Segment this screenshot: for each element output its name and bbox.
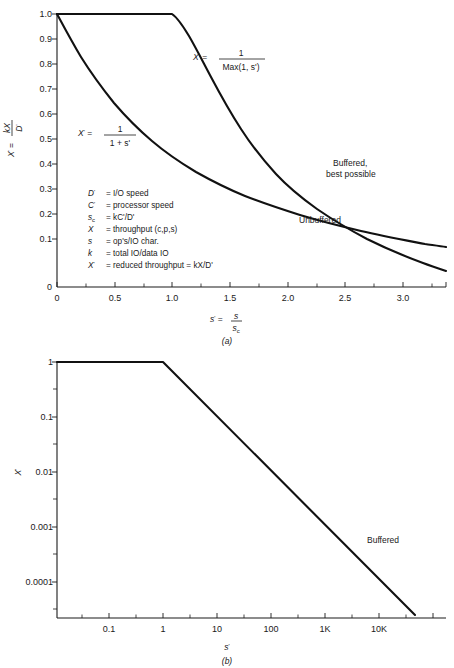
svg-text:k: k (88, 249, 93, 258)
legend-definition: = kC'/D' (106, 213, 135, 222)
legend-row: X = throughput (c,p,s) (87, 225, 177, 234)
panel-b-x-tick-labels: 0.1 1 10 100 1K 10K (103, 624, 387, 634)
svg-text:sc: sc (232, 323, 239, 334)
x-tick-label: 10K (371, 624, 387, 634)
legend-row: X' = reduced throughput = kX/D' (87, 261, 213, 270)
legend-definition: = op's/IO char. (106, 237, 159, 246)
label-line-2: best possible (326, 169, 376, 179)
x-tick-label: 0.5 (109, 293, 122, 303)
fraction-numerator: 1 (239, 48, 244, 58)
y-tick-label: 0.1 (39, 234, 52, 244)
panel-a-y-tick-labels: 1.0 0.9 0.8 0.7 0.6 0.5 0.4 0.3 0.2 0.1 … (39, 9, 52, 292)
x-tick-label: 3.0 (397, 293, 410, 303)
y-tick-label: 0.7 (39, 84, 52, 94)
annotation-label-buffered-b: Buffered (367, 535, 399, 545)
y-tick-label: 0.4 (39, 159, 52, 169)
svg-text:D': D' (14, 124, 24, 131)
y-tick-label: 0.1 (40, 412, 53, 422)
legend-definition: = processor speed (106, 201, 174, 210)
svg-text:X' =: X' = (6, 143, 16, 158)
x-tick-label: 100 (263, 624, 278, 634)
legend-definition: = total IO/data IO (106, 249, 169, 258)
figure-svg: X' = kX D' 1.0 0.9 0.8 0.7 0.6 0.5 0.4 0… (0, 0, 454, 668)
fraction-numerator: 1 (118, 124, 123, 134)
panel-a-x-axis (57, 282, 446, 287)
annotation-label-buffered: Buffered, best possible (326, 158, 376, 179)
legend-definition: = reduced throughput = kX/D' (106, 261, 213, 270)
curve-buffered-log (57, 362, 415, 615)
legend-definition: = I/O speed (106, 189, 149, 198)
x-tick-label: 1.0 (166, 293, 179, 303)
panel-a-y-axis-title: X' = kX D' (2, 120, 24, 158)
legend-row: D' = I/O speed (88, 189, 149, 198)
panel-a-x-tick-labels: 0 0.5 1.0 1.5 2.0 2.5 3.0 (54, 293, 409, 303)
fraction-denominator: 1 + s' (110, 138, 131, 148)
y-tick-label: 0.5 (39, 134, 52, 144)
y-tick-label: 0 (47, 282, 52, 292)
svg-text:C': C' (88, 201, 95, 210)
annotation-formula-unbuffered: X' = 1 1 + s' (77, 124, 136, 148)
panel-b-x-axis-title: s' (224, 642, 229, 652)
svg-text:kX: kX (2, 123, 12, 133)
svg-text:D': D' (88, 189, 95, 198)
svg-text:X: X (87, 225, 94, 234)
svg-text:X': X' (13, 469, 23, 477)
svg-text:X': X' (87, 261, 95, 270)
panel-b-y-axis-title: X' (13, 469, 23, 477)
x-tick-label: 0 (54, 293, 59, 303)
legend-row: C' = processor speed (88, 201, 174, 210)
y-tick-label: 0.001 (30, 522, 53, 532)
annotation-label-unbuffered: Unbuffered (299, 215, 341, 225)
svg-text:s: s (88, 237, 92, 246)
y-tick-label: 0.6 (39, 109, 52, 119)
annotation-formula-buffered: X' = 1 Max(1, s') (192, 48, 265, 72)
svg-text:X' =: X' = (77, 128, 92, 138)
y-tick-label: 0.3 (39, 184, 52, 194)
y-tick-label: 0.01 (35, 467, 53, 477)
x-tick-label: 1K (319, 624, 330, 634)
x-tick-label: 10 (212, 624, 222, 634)
y-tick-label: 0.0001 (25, 577, 53, 587)
legend-row: k = total IO/data IO (88, 249, 169, 258)
panel-a-caption: (a) (222, 336, 233, 346)
label-line-1: Buffered, (333, 158, 367, 168)
legend-row: sc = kC'/D' (88, 213, 135, 223)
panel-b-caption: (b) (222, 656, 233, 666)
panel-b-y-tick-labels: 1 0.1 0.01 0.001 0.0001 (25, 357, 53, 587)
y-tick-label: 1.0 (39, 9, 52, 19)
x-tick-label: 0.1 (103, 624, 116, 634)
svg-text:sc: sc (88, 213, 95, 223)
x-tick-label: 2.0 (282, 293, 295, 303)
legend-row: s = op's/IO char. (88, 237, 159, 246)
x-tick-label: 1.5 (224, 293, 237, 303)
panel-a: X' = kX D' 1.0 0.9 0.8 0.7 0.6 0.5 0.4 0… (2, 9, 446, 346)
x-tick-label: 2.5 (339, 293, 352, 303)
panel-a-legend: D' = I/O speed C' = processor speed sc =… (87, 189, 213, 270)
x-tick-label: 1 (160, 624, 165, 634)
panel-b-x-axis (57, 613, 446, 618)
y-tick-label: 0.2 (39, 209, 52, 219)
panel-b: X' 1 0.1 0.01 0.001 0.0001 (13, 357, 446, 666)
panel-a-y-axis (52, 14, 57, 287)
svg-text:s' =: s' = (210, 314, 223, 324)
y-tick-label: 0.9 (39, 34, 52, 44)
figure-container: X' = kX D' 1.0 0.9 0.8 0.7 0.6 0.5 0.4 0… (0, 0, 454, 668)
svg-text:X' =: X' = (192, 52, 207, 62)
fraction-denominator: Max(1, s') (222, 62, 259, 72)
y-tick-label: 0.8 (39, 59, 52, 69)
svg-text:s: s (234, 311, 239, 321)
legend-definition: = throughput (c,p,s) (106, 225, 177, 234)
panel-a-x-axis-title: s' = s sc (210, 311, 242, 334)
